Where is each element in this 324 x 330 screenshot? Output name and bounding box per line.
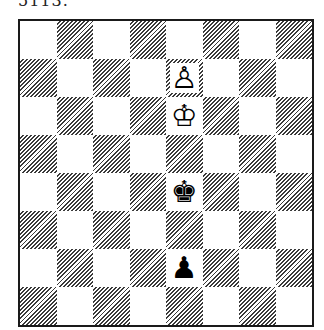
square-e8[interactable] — [166, 21, 203, 59]
square-d5[interactable] — [130, 135, 167, 173]
square-f8[interactable] — [203, 21, 240, 59]
square-d3[interactable] — [130, 211, 167, 249]
square-h6[interactable] — [276, 97, 313, 135]
square-f7[interactable] — [203, 59, 240, 97]
square-e2[interactable]: ♟ — [166, 249, 203, 287]
square-c8[interactable] — [93, 21, 130, 59]
square-b6[interactable] — [57, 97, 94, 135]
square-d1[interactable] — [130, 287, 167, 325]
square-g8[interactable] — [239, 21, 276, 59]
white-king-icon[interactable]: ♔ — [171, 101, 198, 131]
square-h1[interactable] — [276, 287, 313, 325]
square-d4[interactable] — [130, 173, 167, 211]
square-e6[interactable]: ♔ — [166, 97, 203, 135]
square-g4[interactable] — [239, 173, 276, 211]
square-g6[interactable] — [239, 97, 276, 135]
square-d2[interactable] — [130, 249, 167, 287]
square-g1[interactable] — [239, 287, 276, 325]
square-a1[interactable] — [20, 287, 57, 325]
square-a2[interactable] — [20, 249, 57, 287]
square-b5[interactable] — [57, 135, 94, 173]
square-f3[interactable] — [203, 211, 240, 249]
square-b2[interactable] — [57, 249, 94, 287]
square-h2[interactable] — [276, 249, 313, 287]
square-b4[interactable] — [57, 173, 94, 211]
square-c2[interactable] — [93, 249, 130, 287]
square-c7[interactable] — [93, 59, 130, 97]
square-h8[interactable] — [276, 21, 313, 59]
square-f4[interactable] — [203, 173, 240, 211]
black-pawn-icon[interactable]: ♟ — [171, 253, 198, 283]
square-h5[interactable] — [276, 135, 313, 173]
square-e5[interactable] — [166, 135, 203, 173]
white-pawn-icon[interactable]: ♙ — [170, 63, 199, 93]
square-g2[interactable] — [239, 249, 276, 287]
square-f1[interactable] — [203, 287, 240, 325]
square-d6[interactable] — [130, 97, 167, 135]
square-a4[interactable] — [20, 173, 57, 211]
square-h4[interactable] — [276, 173, 313, 211]
square-f2[interactable] — [203, 249, 240, 287]
square-c6[interactable] — [93, 97, 130, 135]
square-c5[interactable] — [93, 135, 130, 173]
square-h7[interactable] — [276, 59, 313, 97]
chess-board: ♙♔♚♟ — [18, 19, 314, 327]
square-f5[interactable] — [203, 135, 240, 173]
square-a5[interactable] — [20, 135, 57, 173]
square-g5[interactable] — [239, 135, 276, 173]
square-c1[interactable] — [93, 287, 130, 325]
diagram-caption: 5113. — [18, 0, 69, 10]
square-e1[interactable] — [166, 287, 203, 325]
square-e7[interactable]: ♙ — [166, 59, 203, 97]
square-d8[interactable] — [130, 21, 167, 59]
square-c4[interactable] — [93, 173, 130, 211]
square-e3[interactable] — [166, 211, 203, 249]
square-e4[interactable]: ♚ — [166, 173, 203, 211]
square-a3[interactable] — [20, 211, 57, 249]
square-b7[interactable] — [57, 59, 94, 97]
square-b1[interactable] — [57, 287, 94, 325]
square-b3[interactable] — [57, 211, 94, 249]
black-king-icon[interactable]: ♚ — [171, 177, 198, 207]
square-a7[interactable] — [20, 59, 57, 97]
square-g7[interactable] — [239, 59, 276, 97]
square-h3[interactable] — [276, 211, 313, 249]
square-a8[interactable] — [20, 21, 57, 59]
square-d7[interactable] — [130, 59, 167, 97]
square-g3[interactable] — [239, 211, 276, 249]
square-b8[interactable] — [57, 21, 94, 59]
square-c3[interactable] — [93, 211, 130, 249]
square-a6[interactable] — [20, 97, 57, 135]
square-f6[interactable] — [203, 97, 240, 135]
